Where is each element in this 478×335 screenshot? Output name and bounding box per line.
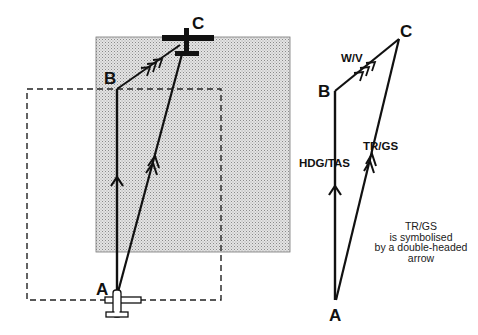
right-diagram: A B C W/V HDG/TAS TR/GS [299, 22, 412, 325]
label-track-gs: TR/GS [363, 140, 398, 152]
label-point-a-left: A [96, 280, 108, 299]
label-point-b-right: B [318, 82, 330, 101]
label-heading-tas: HDG/TAS [299, 157, 350, 169]
label-point-c-right: C [400, 22, 412, 41]
label-point-b-left: B [104, 69, 116, 88]
label-wind-velocity: W/V [341, 52, 363, 64]
note-line-1: TR/GS [368, 221, 474, 232]
note-line-3: by a double-headed [368, 242, 474, 253]
shaded-air-mass-area [96, 37, 290, 252]
note-line-4: arrow [368, 253, 474, 264]
triangle-of-velocities-figure: A B C A B C W/V HDG/TAS TR/GS [0, 0, 478, 335]
triple-arrowhead-icon-right-1 [354, 72, 363, 81]
note-text: TR/GS is symbolised by a double-headed a… [368, 221, 474, 263]
aircraft-icon-a [105, 290, 141, 317]
label-point-a-right: A [329, 306, 341, 325]
left-diagram: A B C [27, 14, 290, 317]
label-point-c-left: C [192, 14, 204, 33]
